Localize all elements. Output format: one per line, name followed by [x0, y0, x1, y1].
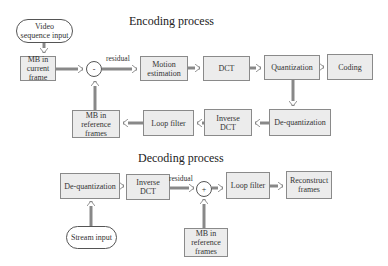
mb-current-frame-node: MB in current frame — [20, 56, 56, 81]
dec-dequantization-label: De-quantization — [64, 182, 116, 191]
decoding-title: Decoding process — [138, 151, 224, 166]
add-node: + — [196, 181, 212, 197]
dequantization-label: De-quantization — [274, 118, 326, 127]
dct-node: DCT — [203, 56, 250, 81]
subtract-label: - — [93, 65, 96, 74]
inverse-dct-label: Inverse DCT — [216, 114, 240, 132]
dec-mb-reference-frames-label: MB in reference frames — [191, 229, 221, 256]
mb-reference-frames-node: MB in reference frames — [72, 110, 120, 138]
quantization-label: Quantization — [271, 63, 312, 72]
motion-estimation-label: Motion estimation — [147, 60, 180, 78]
dec-mb-reference-frames-node: MB in reference frames — [184, 228, 228, 257]
dec-loop-filter-node: Loop filter — [226, 172, 270, 199]
loop-filter-node: Loop filter — [143, 110, 194, 136]
dec-residual-label: residual — [169, 174, 193, 183]
dequantization-node: De-quantization — [269, 109, 331, 136]
reconstruct-frames-label: Reconstruct frames — [290, 176, 328, 194]
subtract-node: - — [86, 61, 102, 77]
video-input-label: Video sequence input — [21, 22, 69, 40]
encoding-title: Encoding process — [129, 14, 214, 29]
video-input-node: Video sequence input — [16, 19, 73, 43]
inverse-dct-node: Inverse DCT — [204, 109, 252, 136]
quantization-node: Quantization — [264, 55, 320, 80]
dec-inverse-dct-node: Inverse DCT — [126, 174, 170, 200]
loop-filter-label: Loop filter — [151, 119, 185, 128]
dec-loop-filter-label: Loop filter — [231, 181, 265, 190]
stream-input-label: Stream input — [71, 233, 112, 242]
stream-input-node: Stream input — [66, 226, 117, 249]
reconstruct-frames-node: Reconstruct frames — [286, 171, 332, 199]
residual-label: residual — [106, 54, 130, 63]
mb-current-frame-label: MB in current frame — [27, 55, 50, 82]
dct-label: DCT — [219, 64, 235, 73]
dec-inverse-dct-label: Inverse DCT — [136, 178, 160, 196]
add-label: + — [202, 185, 207, 194]
coding-node: Coding — [327, 54, 373, 80]
motion-estimation-node: Motion estimation — [140, 56, 188, 81]
mb-reference-frames-label: MB in reference frames — [81, 111, 111, 138]
coding-label: Coding — [338, 63, 362, 72]
dec-dequantization-node: De-quantization — [60, 173, 120, 199]
